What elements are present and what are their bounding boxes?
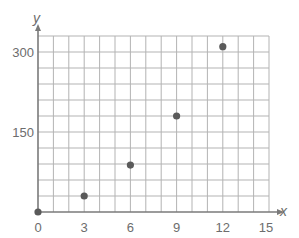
y-axis-label: y [32, 10, 41, 26]
data-point [219, 43, 226, 50]
data-point [81, 192, 88, 199]
data-point [34, 208, 41, 215]
x-axis-label: x [279, 203, 288, 219]
data-point [173, 112, 180, 119]
axes [35, 24, 284, 215]
scatter-chart: 03691215150300 x y [0, 0, 299, 238]
x-tick-label: 12 [216, 220, 230, 235]
x-tick-label: 0 [34, 220, 41, 235]
y-tick-label: 150 [12, 125, 34, 140]
x-tick-label: 9 [173, 220, 180, 235]
data-point [127, 161, 134, 168]
tick-labels: 03691215150300 [12, 45, 273, 235]
x-tick-label: 6 [127, 220, 134, 235]
x-tick-label: 15 [259, 220, 273, 235]
x-tick-label: 3 [81, 220, 88, 235]
grid [38, 36, 269, 212]
y-tick-label: 300 [12, 45, 34, 60]
